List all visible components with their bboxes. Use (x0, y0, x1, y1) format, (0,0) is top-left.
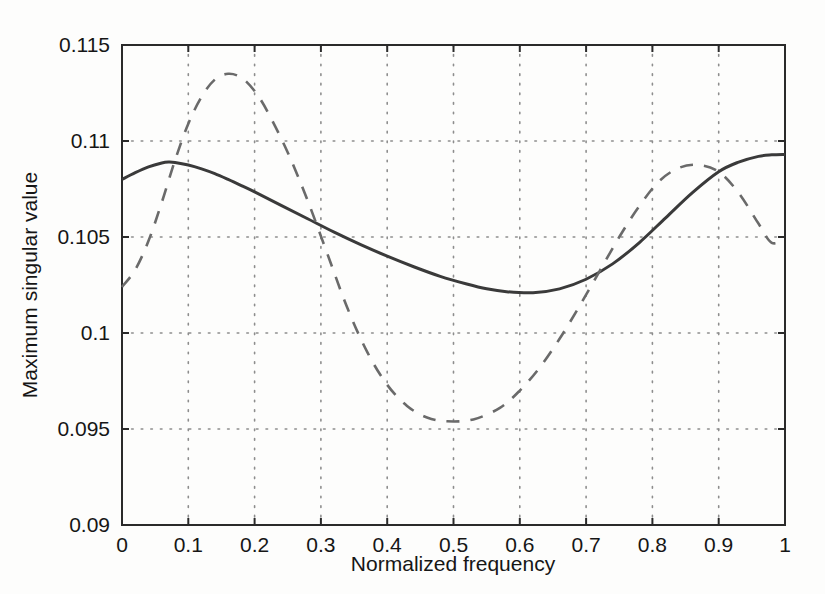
series-line-solid-curve (122, 154, 785, 292)
x-tick-label: 0.1 (174, 533, 203, 557)
chart-plot-area (0, 0, 825, 594)
grid-lines (122, 45, 785, 525)
figure-canvas: 00.10.20.30.40.50.60.70.80.91 0.090.0950… (0, 0, 825, 594)
x-tick-label: 0.8 (638, 533, 667, 557)
x-tick-label: 0.2 (240, 533, 269, 557)
x-tick-label: 1 (779, 533, 791, 557)
x-tick-label: 0.3 (306, 533, 335, 557)
x-tick-label: 0 (116, 533, 128, 557)
y-tick-label: 0.105 (0, 225, 110, 249)
y-tick-label: 0.1 (0, 321, 110, 345)
x-tick-label: 0.9 (704, 533, 733, 557)
y-tick-label: 0.095 (0, 417, 110, 441)
x-tick-label: 0.7 (571, 533, 600, 557)
y-tick-label: 0.115 (0, 33, 110, 57)
y-tick-label: 0.09 (0, 513, 110, 537)
y-axis-title: Maximum singular value (18, 172, 42, 398)
y-tick-label: 0.11 (0, 129, 110, 153)
x-axis-title: Normalized frequency (351, 552, 555, 576)
